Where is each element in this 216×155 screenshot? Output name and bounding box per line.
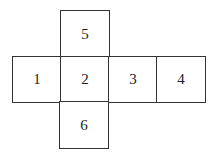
face-4: 4 <box>156 56 206 103</box>
face-1: 1 <box>12 56 62 103</box>
face-2: 2 <box>60 56 110 103</box>
face-6: 6 <box>59 101 109 149</box>
face-3: 3 <box>108 56 158 103</box>
face-5: 5 <box>60 10 110 58</box>
